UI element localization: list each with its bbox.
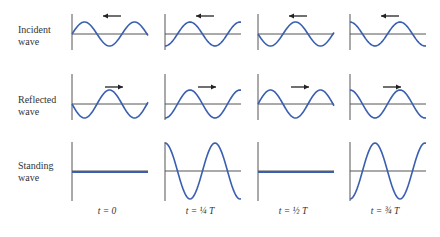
arrowhead-icon [196, 14, 201, 19]
arrowhead-icon [381, 14, 386, 19]
wave-diagram [0, 0, 440, 237]
arrowhead-icon [396, 85, 401, 90]
arrowhead-icon [118, 85, 123, 90]
arrowhead-icon [103, 14, 108, 19]
arrowhead-icon [211, 85, 216, 90]
arrowhead-icon [289, 14, 294, 19]
arrowhead-icon [304, 85, 309, 90]
